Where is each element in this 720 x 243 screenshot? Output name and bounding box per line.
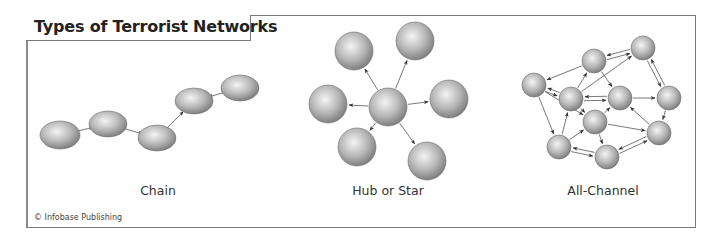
edge-arrow xyxy=(571,152,593,156)
network-diagrams xyxy=(0,0,720,243)
network-node xyxy=(335,32,373,70)
edge-arrow xyxy=(599,134,602,143)
edge-arrow xyxy=(580,108,585,112)
edge-arrow xyxy=(663,110,666,119)
network-node xyxy=(40,121,80,149)
network-node xyxy=(547,135,571,159)
network-node xyxy=(309,85,347,123)
copyright-credit: © Infobase Publishing xyxy=(34,213,122,222)
network-node xyxy=(369,88,407,126)
all-channel-label: All-Channel xyxy=(567,183,638,198)
network-node xyxy=(647,121,671,145)
network-node xyxy=(175,88,213,114)
edge-arrow xyxy=(396,60,407,88)
network-node xyxy=(657,86,681,110)
edge-arrow xyxy=(167,112,183,128)
network-node xyxy=(583,110,607,134)
edge-arrow xyxy=(370,123,376,131)
chain-label: Chain xyxy=(140,183,176,198)
network-node xyxy=(221,75,259,101)
network-node xyxy=(522,73,546,97)
edge-arrow xyxy=(400,123,415,144)
edge-arrow xyxy=(604,108,610,113)
edge-arrow xyxy=(349,105,368,106)
edge-arrow xyxy=(548,88,560,92)
network-node xyxy=(608,86,632,110)
edge-arrow xyxy=(408,102,428,105)
network-node xyxy=(559,87,583,111)
network-node xyxy=(430,80,468,118)
edge-arrow xyxy=(608,124,645,130)
edge-arrow xyxy=(630,107,649,124)
network-node xyxy=(595,145,619,169)
network-node xyxy=(582,49,606,73)
edge-arrow xyxy=(365,69,378,90)
network-node xyxy=(138,125,176,151)
network-node xyxy=(408,142,446,180)
edge-arrow xyxy=(562,113,567,135)
network-node xyxy=(338,128,376,166)
edge-arrow xyxy=(547,66,582,80)
edge-arrow xyxy=(570,130,584,140)
edge-arrow xyxy=(539,97,554,134)
network-node xyxy=(89,111,127,137)
edge-arrow xyxy=(578,73,587,88)
network-node xyxy=(396,22,434,60)
network-node xyxy=(631,36,655,60)
hub-or-star-label: Hub or Star xyxy=(352,183,424,198)
edge-arrow xyxy=(573,148,595,152)
